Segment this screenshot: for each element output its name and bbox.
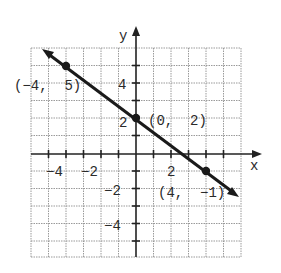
point-neg4-5 <box>62 62 70 70</box>
x-tick-label-neg4: −4 <box>46 164 63 180</box>
x-axis-arrow-icon <box>252 150 262 158</box>
point-label-neg4-5: (−4, 5) <box>14 78 81 94</box>
plotted-line <box>42 49 239 197</box>
y-tick-label-2: 2 <box>119 115 127 131</box>
coordinate-plane: y x −4 −2 2 4 2 −2 −4 (−4, 5) (0, 2) (4,… <box>0 0 281 273</box>
point-label-0-2: (0, 2) <box>148 113 207 129</box>
y-tick-label-neg2: −2 <box>104 183 121 199</box>
point-4-neg1 <box>202 167 210 175</box>
point-0-2 <box>132 114 140 122</box>
point-label-4-neg1: (4, −1) <box>158 185 225 201</box>
x-axis-label: x <box>250 158 258 174</box>
x-tick-label-2: 2 <box>167 164 175 180</box>
x-tick-label-neg2: −2 <box>81 164 98 180</box>
y-axis-label: y <box>119 28 127 44</box>
y-tick-label-4: 4 <box>118 77 126 93</box>
y-tick-label-neg4: −4 <box>104 218 121 234</box>
y-axis-arrow-icon <box>132 26 140 36</box>
